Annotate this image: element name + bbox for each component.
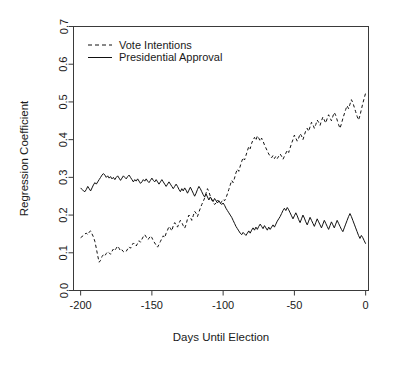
x-axis-title: Days Until Election (173, 331, 270, 343)
y-tick-label: 0.4 (58, 132, 70, 147)
y-tick-label: 0.5 (58, 94, 70, 109)
regression-coefficient-line-chart: 0.00.10.20.30.40.50.60.7 -200-150-100-50… (0, 0, 400, 370)
y-tick-label: 0.7 (58, 19, 70, 34)
y-tick-label: 0.2 (58, 207, 70, 222)
x-tick-label: -100 (212, 299, 234, 311)
y-tick-label: 0.3 (58, 170, 70, 185)
x-tick-label: -150 (141, 299, 163, 311)
x-tick-label: 0 (363, 299, 369, 311)
y-axis-title: Regression Coefficient (18, 100, 30, 216)
y-tick-label: 0.6 (58, 57, 70, 72)
legend-label-0: Vote Intentions (119, 39, 192, 51)
y-tick-label: 0.1 (58, 245, 70, 260)
chart-figure: 0.00.10.20.30.40.50.60.7 -200-150-100-50… (0, 0, 400, 370)
x-tick-label: -200 (70, 299, 92, 311)
y-tick-label: 0.0 (58, 283, 70, 298)
legend-label-1: Presidential Approval (119, 51, 222, 63)
x-tick-label: -50 (286, 299, 302, 311)
